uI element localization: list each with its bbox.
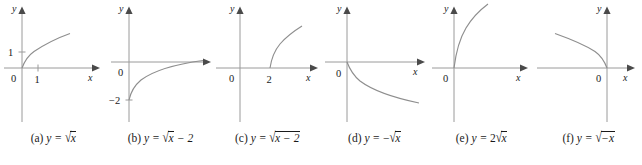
panel-f-lhs: y =: [577, 132, 593, 144]
origin-label: 0: [443, 73, 448, 84]
panel-a: y x 0 1 1 (a) y = √x: [0, 0, 107, 165]
x-axis-label: x: [515, 72, 521, 83]
origin-label: 0: [336, 68, 341, 79]
x-axis-arrow-icon: [627, 64, 635, 71]
panel-b-suffix: − 2: [174, 132, 193, 144]
panel-d-radical: √x: [390, 131, 401, 144]
panel-f: y x 0 (f) y = √−x: [535, 0, 642, 165]
radical-sign-icon: √: [390, 130, 396, 145]
x-axis-label: x: [305, 72, 311, 83]
x-axis-label: x: [87, 72, 93, 83]
panel-c-lhs: y =: [251, 132, 267, 144]
x-axis-arrow-icon: [92, 64, 100, 71]
y-tick-label-1: 1: [8, 47, 13, 58]
panel-b-lhs: y =: [144, 132, 160, 144]
y-axis-label: y: [229, 3, 235, 14]
panel-c-radical: √x − 2: [269, 131, 300, 144]
curve-two-sqrt-x: [454, 4, 488, 68]
panel-a-caption: (a) y = √x: [0, 131, 107, 144]
curve-sqrt-negative-x: [555, 34, 607, 69]
y-axis-label: y: [336, 3, 342, 14]
panel-d: y x 0 (d) y = −√x: [321, 0, 428, 165]
y-axis-label: y: [596, 3, 602, 14]
x-axis-arrow-icon: [520, 64, 528, 71]
panel-b-index: (b): [128, 132, 141, 144]
x-axis-label: x: [412, 66, 418, 77]
panel-a-plot: y x 0 1 1: [0, 0, 107, 130]
panel-e-radical: √x: [496, 131, 507, 144]
origin-label: 0: [596, 73, 601, 84]
curve-sqrt-x-minus-2: [129, 61, 203, 101]
radical-sign-icon: √: [496, 130, 502, 145]
y-axis-label: y: [443, 3, 449, 14]
origin-label: 0: [118, 67, 123, 78]
panel-e-lhs: y =: [471, 132, 487, 144]
radical-sign-icon: √: [595, 130, 601, 145]
panel-a-radical: √x: [65, 131, 76, 144]
y-tick-label-minus-2: −2: [109, 95, 120, 106]
x-axis-label: x: [622, 72, 628, 83]
figure-row-sqrt-transformations: y x 0 1 1 (a) y = √x y 0 −2: [0, 0, 642, 165]
panel-d-index: (d): [348, 132, 361, 144]
panel-d-lhs: y =: [364, 132, 380, 144]
panel-b: y 0 −2 (b) y = √x − 2: [107, 0, 214, 165]
panel-a-index: (a): [31, 132, 44, 144]
panel-d-plot: y x 0: [321, 0, 428, 130]
panel-b-caption: (b) y = √x − 2: [107, 131, 214, 144]
panel-e: y x 0 (e) y = 2√x: [428, 0, 535, 165]
x-axis-arrow-icon: [203, 58, 211, 65]
panel-e-caption: (e) y = 2√x: [428, 131, 535, 144]
panel-e-index: (e): [456, 132, 469, 144]
panel-a-lhs: y =: [46, 132, 62, 144]
x-axis-arrow-icon: [417, 58, 425, 65]
radical-sign-icon: √: [163, 130, 169, 145]
y-axis-arrow-icon: [603, 7, 610, 15]
panel-f-radicand: −x: [601, 131, 615, 144]
y-axis-arrow-icon: [236, 7, 243, 15]
panel-c-plot: y x 0 2: [214, 0, 321, 130]
y-axis-label: y: [11, 3, 17, 14]
radical-sign-icon: √: [269, 130, 275, 145]
panel-c: y x 0 2 (c) y = √x − 2: [214, 0, 321, 165]
panel-f-caption: (f) y = √−x: [535, 131, 642, 144]
origin-label: 0: [229, 73, 234, 84]
panel-f-radical: √−x: [595, 131, 614, 144]
x-tick-label-1: 1: [35, 74, 40, 85]
panel-b-radical: √x: [163, 131, 174, 144]
y-axis-arrow-icon: [450, 7, 457, 15]
panel-b-plot: y 0 −2: [107, 0, 214, 130]
radical-sign-icon: √: [65, 130, 71, 145]
curve-negative-sqrt-x: [347, 62, 419, 103]
panel-e-plot: y x 0: [428, 0, 535, 130]
y-axis-arrow-icon: [343, 7, 350, 15]
curve-sqrt-x: [22, 34, 70, 69]
panel-c-radicand: x − 2: [275, 131, 300, 144]
x-tick-label-2: 2: [267, 74, 272, 85]
y-axis-arrow-icon: [18, 7, 25, 15]
x-axis-arrow-icon: [310, 64, 318, 71]
curve-sqrt-x-minus-2-shift: [270, 26, 302, 68]
y-axis-label: y: [118, 3, 124, 14]
panel-d-caption: (d) y = −√x: [321, 131, 428, 144]
panel-c-caption: (c) y = √x − 2: [214, 131, 321, 144]
origin-label: 0: [11, 73, 16, 84]
y-axis-arrow-icon: [125, 7, 132, 15]
panel-f-index: (f): [562, 132, 574, 144]
panel-f-plot: y x 0: [535, 0, 642, 130]
panel-c-index: (c): [235, 132, 248, 144]
